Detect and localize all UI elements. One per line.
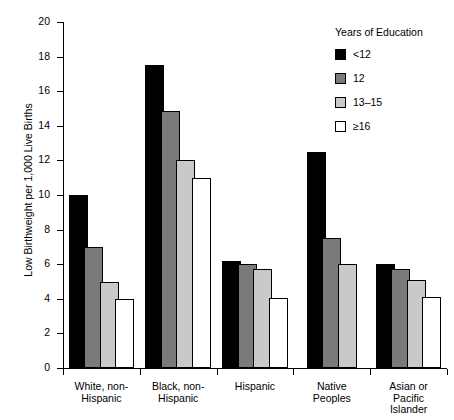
x-tick [370,369,371,375]
y-axis-title: Low Birthweight per 1,000 Live Births [22,40,34,340]
y-tick [57,57,63,58]
legend-title: Years of Education [335,26,454,38]
legend-item: <12 [335,47,454,61]
bar [422,297,441,368]
legend-item: 13–15 [335,95,454,109]
y-tick [57,126,63,127]
legend-item: 12 [335,71,454,85]
x-axis-label: White, non- Hispanic [63,381,140,404]
y-tick [57,91,63,92]
bar [192,178,211,368]
x-axis-label: Native Peoples [293,381,370,404]
legend-swatch-icon [335,49,346,60]
y-tick [57,299,63,300]
y-tick-label: 0 [26,362,50,373]
y-tick [57,333,63,334]
legend-item-label: 13–15 [353,97,382,108]
x-tick [293,369,294,375]
legend-swatch-icon [335,97,346,108]
y-tick [57,264,63,265]
y-tick [57,160,63,161]
legend-swatch-icon [335,121,346,132]
bar [269,298,288,368]
x-axis-label: Black, non- Hispanic [140,381,217,404]
x-tick [217,369,218,375]
legend-item-label: ≥16 [353,121,370,132]
x-tick [63,369,64,375]
x-axis-label: Asian or Pacific Islander [370,381,447,416]
y-tick [57,230,63,231]
legend-item: ≥16 [335,119,454,133]
legend-items: <121213–15≥16 [335,47,454,133]
x-axis-line [63,368,447,369]
x-axis-label: Hispanic [217,381,294,393]
legend: Years of Education <121213–15≥16 [335,26,454,143]
legend-swatch-icon [335,73,346,84]
y-tick-label: 20 [26,16,50,27]
bar [115,299,134,368]
bar [338,264,357,368]
legend-item-label: <12 [353,49,371,60]
x-tick [447,369,448,375]
y-axis-line [63,22,64,368]
bar-chart: 02468101214161820 Low Birthweight per 1,… [0,0,454,420]
x-tick [140,369,141,375]
y-tick [57,22,63,23]
legend-item-label: 12 [353,73,365,84]
y-tick [57,195,63,196]
